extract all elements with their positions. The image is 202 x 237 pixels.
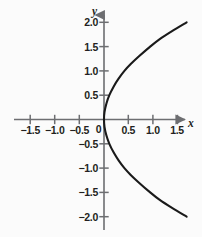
y-tick-label--0.5: −0.5	[56, 138, 98, 150]
y-tick-label--1.0: −1.0	[56, 162, 98, 174]
graph-figure: −1.5 −1.0 −0.5 0 0.5 1.0 1.5 2.0 1.5 1.0…	[0, 0, 202, 237]
y-tick-label-1.0: 1.0	[60, 65, 98, 77]
y-tick-label-1.5: 1.5	[60, 41, 98, 53]
origin-label: 0	[96, 123, 102, 135]
x-tick-label-0.5: 0.5	[121, 124, 135, 136]
x-tick-label--1.0: −1.0	[45, 124, 65, 136]
y-axis-label: y	[92, 5, 97, 17]
y-tick-label-2.0: 2.0	[60, 16, 98, 28]
x-tick-label-1.5: 1.5	[170, 124, 184, 136]
y-tick-label-0.5: 0.5	[60, 89, 98, 101]
x-tick-label--1.5: −1.5	[20, 124, 40, 136]
plot-area	[0, 0, 202, 237]
y-tick-label--1.5: −1.5	[56, 186, 98, 198]
x-tick-label--0.5: −0.5	[70, 124, 90, 136]
x-tick-label-1.0: 1.0	[146, 124, 160, 136]
y-tick-label--2.0: −2.0	[56, 211, 98, 223]
x-axis-label: x	[188, 117, 194, 129]
